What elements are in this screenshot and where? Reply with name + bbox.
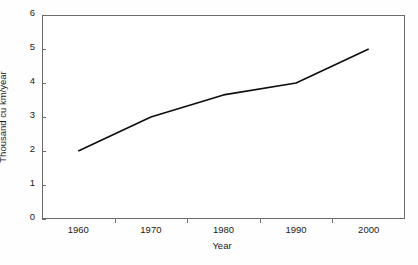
- y-tick-mark: [42, 219, 46, 220]
- x-tick-mark: [115, 219, 116, 223]
- x-tick-mark: [187, 219, 188, 223]
- x-axis-title: Year: [212, 240, 231, 251]
- plot-area: [42, 15, 405, 219]
- y-tick-mark: [42, 49, 46, 50]
- x-tick-mark: [332, 219, 333, 223]
- y-tick-label: 3: [30, 110, 35, 120]
- x-tick-label-1960: 1960: [68, 224, 89, 235]
- x-tick-label-1990: 1990: [286, 224, 307, 235]
- y-tick-label: 4: [30, 76, 35, 86]
- chart-container: 0123456 19601970198019902000 Year Thousa…: [0, 0, 418, 265]
- y-tick-mark: [42, 15, 46, 16]
- y-tick-mark: [42, 117, 46, 118]
- y-tick-mark: [42, 185, 46, 186]
- y-tick-label: 6: [30, 8, 35, 18]
- x-tick-mark: [260, 219, 261, 223]
- x-tick-label-1970: 1970: [140, 224, 161, 235]
- y-tick-mark: [42, 83, 46, 84]
- y-axis-title-text: Thousand cu km/year: [0, 71, 8, 162]
- y-tick-label: 5: [30, 42, 35, 52]
- x-tick-label-2000: 2000: [358, 224, 379, 235]
- x-tick-label-1980: 1980: [213, 224, 234, 235]
- y-tick-label: 0: [30, 212, 35, 222]
- y-tick-label: 2: [30, 144, 35, 154]
- y-axis-title: Thousand cu km/year: [0, 71, 8, 162]
- y-tick-label: 1: [30, 178, 35, 188]
- y-tick-mark: [42, 151, 46, 152]
